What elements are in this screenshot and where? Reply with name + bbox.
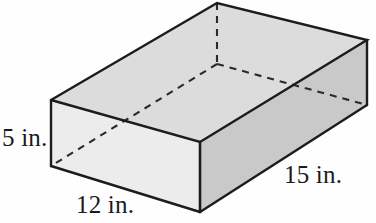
width-dimension-label: 12 in.	[76, 192, 134, 217]
rectangular-prism-figure: 5 in. 12 in. 15 in.	[0, 0, 376, 223]
height-dimension-label: 5 in.	[2, 125, 47, 150]
prism-drawing	[0, 0, 376, 223]
length-dimension-label: 15 in.	[284, 162, 342, 187]
